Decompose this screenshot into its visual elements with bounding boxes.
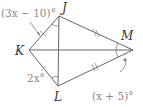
arrowhead-M-icon xyxy=(123,58,127,61)
edge-KJ xyxy=(29,16,59,50)
edge-ML xyxy=(58,50,133,86)
vertex-label-L: L xyxy=(53,90,62,104)
kite-diagram: J K L M (3x − 10)° 2x° (x + 5)° xyxy=(0,0,143,107)
angle-arc-L xyxy=(52,76,58,78)
vertex-label-J: J xyxy=(59,1,68,15)
vertex-label-M: M xyxy=(120,29,134,43)
vertex-label-K: K xyxy=(14,44,25,58)
angle-label-M: (x + 5)° xyxy=(92,90,134,102)
angle-label-L: 2x° xyxy=(27,72,45,84)
angle-label-J: (3x − 10)° xyxy=(1,7,56,19)
angle-arc-J xyxy=(52,24,59,26)
